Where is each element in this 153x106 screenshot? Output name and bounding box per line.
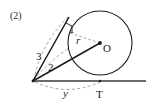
label-base-y: y [62,87,68,99]
label-segment-1: 1 [69,23,75,35]
label-radius-r: r [76,34,81,46]
external-point-dot [32,80,35,83]
label-center-O: O [103,42,111,54]
center-point-dot [98,41,102,45]
label-segment-2: 2 [48,61,54,73]
problem-number-label: (2) [10,10,22,22]
tangent-point-dot [99,80,101,82]
label-segment-3: 3 [36,50,42,62]
figure-canvas: (2) 1 3 2 r O T y [0,0,153,106]
label-tangent-point-T: T [96,88,103,100]
radius-dashed-line [70,33,100,43]
geometry-figure: (2) 1 3 2 r O T y [0,0,153,106]
